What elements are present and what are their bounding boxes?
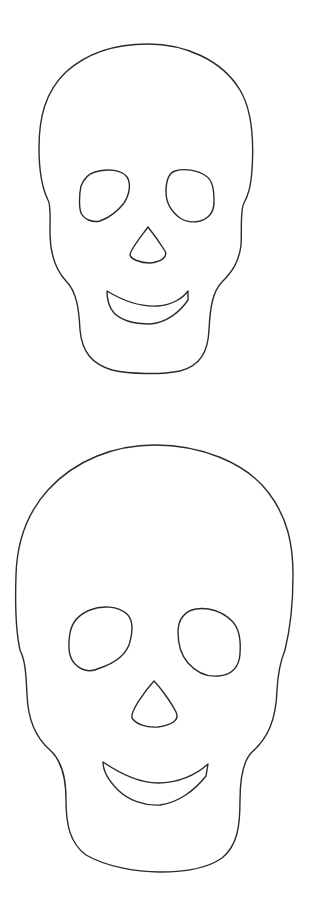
small-skull [39, 44, 253, 374]
large-skull [16, 445, 293, 872]
small-skull-left-eye [80, 170, 130, 222]
small-skull-nose [130, 227, 166, 263]
small-skull-mouth [107, 291, 188, 324]
skull-template-page [0, 0, 315, 906]
large-skull-nose [132, 681, 177, 727]
large-skull-mouth [103, 762, 208, 805]
small-skull-right-eye [166, 170, 214, 222]
large-skull-outline [16, 445, 293, 872]
skull-drawings [0, 0, 315, 906]
large-skull-left-eye [69, 607, 132, 671]
large-skull-right-eye [178, 609, 240, 677]
